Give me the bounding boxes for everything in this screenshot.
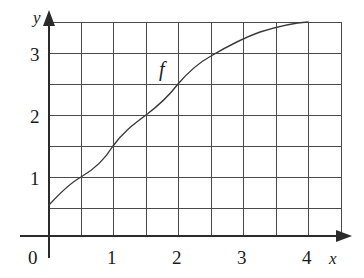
x-tick-label-3: 3 [237, 247, 247, 268]
x-tick-label-4: 4 [302, 247, 312, 268]
y-axis-label: y [31, 8, 41, 27]
y-tick-label-1: 1 [30, 168, 40, 189]
x-tick-label-1: 1 [107, 247, 117, 268]
origin-tick-label: 0 [28, 247, 38, 268]
y-tick-label-3: 3 [30, 44, 40, 65]
y-axis-arrowhead [43, 10, 55, 26]
x-axis [20, 230, 352, 242]
x-axis-arrowhead [336, 230, 352, 242]
curve-label-f: f [159, 58, 167, 81]
y-tick-label-2: 2 [30, 106, 40, 127]
x-tick-label-2: 2 [172, 247, 182, 268]
y-axis [43, 10, 55, 258]
graph-figure: f y x 0 1 2 3 4 1 2 3 [0, 0, 364, 278]
function-graph-svg: f y x 0 1 2 3 4 1 2 3 [0, 0, 364, 278]
grid-lines [49, 22, 341, 236]
x-axis-label: x [328, 249, 337, 268]
